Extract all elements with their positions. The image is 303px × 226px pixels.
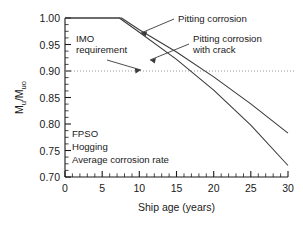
annotation-pitting-corrosion: Pitting corrosion [178, 13, 247, 24]
y-tick-label: 0.70 [40, 171, 61, 183]
note-hogging: Hogging [72, 141, 108, 152]
chart-figure: 0.70 0.75 0.80 0.85 0.90 0.95 1.00 0 5 1… [0, 0, 303, 226]
y-axis-title-m1: M [13, 105, 25, 114]
x-axis-title: Ship age (years) [138, 201, 215, 213]
note-average-corrosion-rate: Average corrosion rate [72, 154, 169, 165]
y-axis-title-sub2: uo [19, 81, 28, 89]
y-tick-label: 0.90 [40, 65, 61, 77]
x-tick-label: 25 [245, 182, 257, 194]
x-tick-label: 5 [99, 182, 105, 194]
y-tick-label: 0.95 [40, 39, 61, 51]
x-tick-label: 15 [171, 182, 183, 194]
y-axis-title-slash: /M [13, 89, 25, 101]
annotation-pitting-corrosion-with-crack-line1: Pitting corrosion [193, 33, 262, 44]
x-tick-label: 0 [62, 182, 68, 194]
x-tick-label: 30 [282, 182, 294, 194]
annotation-imo-requirement-line2: requirement [76, 44, 128, 55]
note-fpso: FPSO [72, 128, 98, 139]
x-tick-label: 20 [208, 182, 220, 194]
annotation-pitting-corrosion-with-crack-line2: with crack [192, 44, 236, 55]
y-tick-label: 1.00 [40, 12, 61, 24]
y-tick-label: 0.85 [40, 92, 61, 104]
y-tick-label: 0.80 [40, 118, 61, 130]
x-tick-label: 10 [133, 182, 145, 194]
line-chart-canvas: 0.70 0.75 0.80 0.85 0.90 0.95 1.00 0 5 1… [0, 0, 303, 226]
y-tick-label: 0.75 [40, 145, 61, 157]
annotation-imo-requirement-line1: IMO [76, 33, 94, 44]
